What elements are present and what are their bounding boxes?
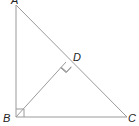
label-d: D (73, 51, 81, 63)
label-b: B (3, 112, 10, 124)
label-a: A (10, 0, 18, 6)
label-c: C (128, 112, 136, 124)
triangle-diagram: A B C D (0, 0, 139, 126)
segment-ac (16, 5, 127, 117)
